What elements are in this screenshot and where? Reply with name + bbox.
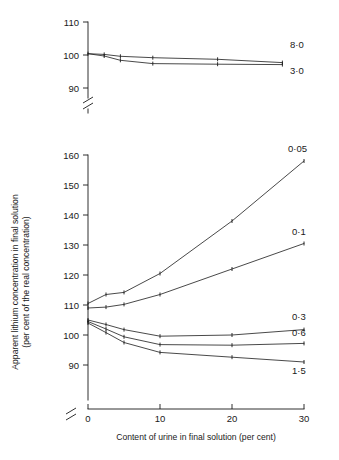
series-label-1-5: 1·5	[292, 365, 306, 376]
series-line-3-0	[88, 54, 282, 65]
series-label-8-0: 8·0	[290, 39, 304, 50]
upper-tick-label-110: 110	[64, 17, 79, 28]
x-tick-label-30: 30	[299, 413, 310, 424]
y-axis-title-line1: Apparent lithium concentration in final …	[10, 194, 20, 370]
lower-panel: 160 150 140 130 120 110 100 90 0 10 20 3…	[63, 143, 309, 424]
series-label-0-6: 0·6	[292, 327, 306, 338]
series-label-0-1: 0·1	[292, 226, 306, 237]
lithium-recovery-chart: 110 100 90 8·0	[0, 0, 339, 460]
x-tick-label-10: 10	[155, 413, 166, 424]
series-label-0-05: 0·05	[288, 143, 307, 154]
x-tick-label-0: 0	[85, 413, 90, 424]
upper-tick-label-100: 100	[63, 50, 79, 61]
lower-panel-axis-break	[66, 408, 76, 420]
lower-tick-label-100: 100	[63, 330, 79, 341]
lower-tick-label-160: 160	[63, 150, 79, 161]
series-label-0-3: 0·3	[292, 311, 306, 322]
series-line-8-0	[88, 54, 282, 63]
series-markers-0-6	[88, 320, 304, 348]
lower-tick-label-120: 120	[63, 270, 79, 281]
lower-tick-label-110: 110	[64, 300, 79, 311]
lower-tick-label-90: 90	[68, 360, 79, 371]
series-markers-0-05	[88, 159, 304, 306]
series-label-3-0: 3·0	[290, 65, 304, 76]
series-markers-0-1	[88, 242, 304, 311]
x-axis-title: Content of urine in final solution (per …	[116, 432, 276, 442]
figure-container: 110 100 90 8·0	[0, 0, 339, 460]
series-markers-1-5	[88, 321, 304, 364]
upper-tick-label-90: 90	[68, 83, 79, 94]
lower-tick-label-150: 150	[63, 180, 79, 191]
series-line-0-3	[88, 320, 304, 336]
lower-tick-label-140: 140	[63, 210, 79, 221]
y-axis-title-line2: (per cent of the real concentration)	[21, 216, 31, 348]
upper-panel-axis-break	[83, 97, 93, 109]
upper-panel: 110 100 90 8·0	[63, 17, 304, 114]
lower-tick-label-130: 130	[63, 240, 79, 251]
x-tick-label-20: 20	[227, 413, 238, 424]
series-line-0-1	[88, 244, 304, 309]
series-line-0-6	[88, 322, 304, 346]
